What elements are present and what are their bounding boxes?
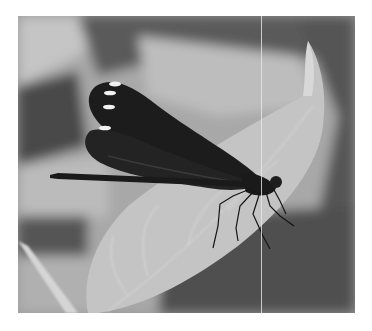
photo-canvas <box>18 16 355 313</box>
scan-line-artifact <box>261 16 262 313</box>
damselfly-photo <box>18 16 355 313</box>
